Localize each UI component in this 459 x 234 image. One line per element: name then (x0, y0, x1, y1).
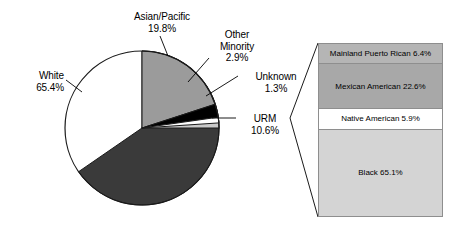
pie-label-other-minority-value: 2.9% (206, 52, 268, 64)
pie-label-white-name: White (8, 70, 64, 82)
pie-label-asian-pacific-name: Asian/Pacific (118, 11, 206, 23)
leader-line-unknown (206, 76, 238, 96)
pie-label-asian-pacific: Asian/Pacific 19.8% (118, 11, 206, 34)
callout-connector (290, 43, 318, 217)
pie-label-urm: URM 10.6% (240, 113, 290, 136)
pie-label-urm-name: URM (240, 113, 290, 125)
bar-segment-mainland-puerto-rican: Mainland Puerto Rican 6.4% (319, 44, 442, 64)
pie-label-other-minority-name-line1: Other (206, 29, 268, 41)
pie-label-white: White 65.4% (8, 70, 64, 93)
bar-segment-native-american-label: Native American 5.9% (339, 114, 422, 123)
pie-label-other-minority: Other Minority 2.9% (206, 29, 268, 64)
pie-label-unknown-name: Unknown (240, 71, 312, 83)
bar-segment-native-american: Native American 5.9% (319, 109, 442, 130)
pie-label-white-value: 65.4% (8, 82, 64, 94)
bar-segment-black: Black 65.1% (319, 130, 442, 216)
pie-label-unknown-value: 1.3% (240, 83, 312, 95)
bar-segment-black-label: Black 65.1% (356, 168, 404, 177)
pie-label-unknown: Unknown 1.3% (240, 71, 312, 94)
bar-segment-mainland-puerto-rican-label: Mainland Puerto Rican 6.4% (328, 49, 433, 58)
bar-segment-mexican-american: Mexican American 22.6% (319, 64, 442, 109)
pie-label-asian-pacific-value: 19.8% (118, 23, 206, 35)
urm-breakdown-bar: Mainland Puerto Rican 6.4% Mexican Ameri… (318, 43, 443, 217)
pie-chart-figure: White 65.4% Asian/Pacific 19.8% Other Mi… (0, 0, 459, 234)
bar-segment-mexican-american-label: Mexican American 22.6% (333, 82, 427, 91)
pie-label-urm-value: 10.6% (240, 125, 290, 137)
leader-line-white (66, 80, 82, 92)
pie-label-other-minority-name-line2: Minority (206, 41, 268, 53)
